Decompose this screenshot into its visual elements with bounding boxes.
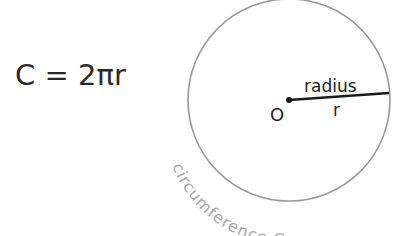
circle-diagram: O radius r circumference C <box>0 0 408 236</box>
radius-label: radius <box>304 76 357 96</box>
center-point <box>286 97 292 103</box>
circumference-label: circumference C <box>168 160 286 236</box>
center-label: O <box>270 104 284 125</box>
radius-symbol: r <box>333 100 340 120</box>
circle-formula-diagram: C = 2πr O radius r circumference C <box>0 0 408 236</box>
